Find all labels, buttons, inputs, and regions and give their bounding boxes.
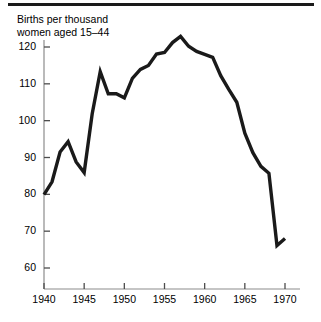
x-axis-tick-label: 1965 — [229, 294, 261, 305]
y-axis-ticks — [44, 47, 50, 268]
x-axis-tick-label: 1960 — [189, 294, 221, 305]
x-axis-tick-label: 1970 — [269, 294, 301, 305]
y-axis-tick-label: 110 — [10, 78, 36, 89]
figure-container: Births per thousandwomen aged 15–44 6070… — [0, 0, 321, 322]
y-axis-tick-label: 100 — [10, 115, 36, 126]
birth-rate-data-line — [44, 36, 285, 245]
bottom-cut-caption — [6, 313, 315, 320]
y-axis-tick-label: 80 — [10, 188, 36, 199]
x-axis-tick-label: 1955 — [149, 294, 181, 305]
x-axis-ticks — [44, 283, 285, 289]
y-axis-tick-label: 120 — [10, 41, 36, 52]
x-axis-tick-label: 1940 — [28, 294, 60, 305]
y-axis-tick-label: 60 — [10, 262, 36, 273]
y-axis-tick-label: 70 — [10, 225, 36, 236]
y-axis-tick-label: 90 — [10, 152, 36, 163]
x-axis-tick-label: 1950 — [108, 294, 140, 305]
plot-area — [0, 0, 321, 322]
x-axis-tick-label: 1945 — [68, 294, 100, 305]
